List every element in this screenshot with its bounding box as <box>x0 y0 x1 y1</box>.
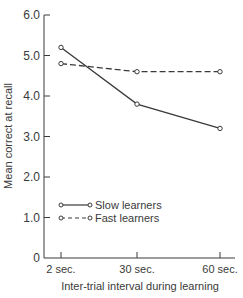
x-ticks: 2 sec.30 sec.60 sec. <box>46 252 237 275</box>
x-tick-label: 30 sec. <box>119 263 154 275</box>
y-ticks: 01.02.03.04.05.06.0 <box>23 8 50 265</box>
y-tick-label: 3.0 <box>23 130 40 144</box>
x-tick-label: 2 sec. <box>46 263 75 275</box>
data-point-marker <box>218 126 222 130</box>
y-axis-label: Mean correct at recall <box>2 83 14 189</box>
legend-marker <box>88 216 92 220</box>
y-tick-label: 0 <box>33 251 40 265</box>
y-tick-label: 2.0 <box>23 170 40 184</box>
line-chart: 01.02.03.04.05.06.0 2 sec.30 sec.60 sec.… <box>0 0 243 298</box>
data-point-marker <box>59 61 63 65</box>
data-point-marker <box>135 70 139 74</box>
x-axis-label: Inter-trial interval during learning <box>61 280 219 292</box>
series <box>59 45 222 130</box>
legend-marker <box>88 203 92 207</box>
data-point-marker <box>135 102 139 106</box>
data-point-marker <box>218 70 222 74</box>
legend: Slow learnersFast learners <box>59 199 162 224</box>
legend-marker <box>59 216 63 220</box>
y-tick-label: 5.0 <box>23 49 40 63</box>
data-point-marker <box>59 45 63 49</box>
y-tick-label: 1.0 <box>23 211 40 225</box>
y-tick-label: 4.0 <box>23 89 40 103</box>
legend-label: Slow learners <box>95 199 162 211</box>
legend-marker <box>59 203 63 207</box>
legend-label: Fast learners <box>95 212 160 224</box>
x-tick-label: 60 sec. <box>202 263 237 275</box>
series-line-slow-learners <box>61 47 220 128</box>
y-tick-label: 6.0 <box>23 8 40 22</box>
chart-svg: 01.02.03.04.05.06.0 2 sec.30 sec.60 sec.… <box>0 0 243 298</box>
